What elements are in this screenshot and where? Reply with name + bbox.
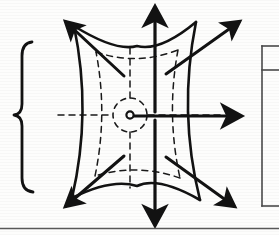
diagram-canvas (0, 0, 279, 235)
origin-marker (126, 111, 133, 118)
force-arrows (66, 8, 240, 224)
figure-page (0, 0, 279, 235)
outline-left-edge (72, 26, 83, 198)
arrow-up-left (66, 22, 124, 76)
solid-curved-quadrilateral (72, 22, 200, 200)
curly-brace (14, 42, 33, 192)
outline-top-edge (74, 22, 196, 47)
arrow-up-right (166, 22, 239, 74)
cropped-table[interactable] (262, 46, 279, 206)
